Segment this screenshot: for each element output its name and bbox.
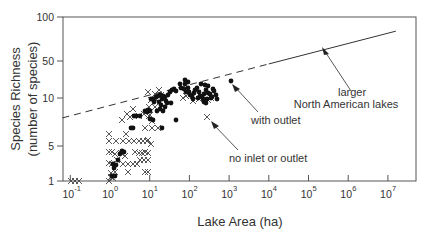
x-tick-exponent: 6	[352, 184, 356, 193]
dot-marker	[202, 100, 207, 105]
x-tick-label: 10	[142, 188, 154, 200]
dot-marker	[199, 82, 204, 87]
x-marker	[112, 151, 118, 157]
x-marker	[106, 138, 112, 144]
x-tick-label: 10	[62, 188, 74, 200]
y-tick-label: 100	[36, 11, 54, 23]
dot-marker	[178, 82, 183, 87]
dot-marker	[152, 100, 157, 105]
dot-marker	[229, 79, 234, 84]
annotation-north-american-text: North American lakes	[294, 98, 399, 110]
y-tick-label: 5	[48, 140, 54, 152]
x-marker	[145, 157, 151, 163]
y-axis-title-line1: Species Richness	[8, 47, 23, 151]
x-marker	[120, 138, 126, 144]
dot-marker	[122, 150, 127, 155]
x-tick-exponent: 4	[273, 184, 277, 193]
y-axis-title-line2: (number of species)	[25, 42, 40, 157]
x-marker	[136, 150, 142, 156]
dot-marker	[215, 97, 220, 102]
x-tick-label: 10	[261, 188, 273, 200]
dot-marker	[174, 89, 179, 94]
y-tick-label: 10	[42, 92, 54, 104]
annotation-larger-lakes: larger North American lakes	[294, 47, 399, 110]
x-marker	[119, 117, 125, 123]
x-marker	[106, 149, 112, 155]
x-marker	[106, 131, 112, 137]
x-tick-exponent: 0	[114, 184, 118, 193]
x-marker	[142, 169, 148, 175]
x-marker	[125, 169, 131, 175]
x-tick-exponent: 5	[313, 184, 317, 193]
dot-marker	[114, 163, 119, 168]
dot-marker	[113, 174, 118, 179]
x-tick-exponent: 2	[193, 184, 197, 193]
x-marker	[124, 111, 130, 117]
dot-marker	[197, 90, 202, 95]
dot-marker	[151, 118, 156, 123]
x-tick-label: 10	[221, 188, 233, 200]
x-marker	[125, 161, 131, 167]
annotation-with-outlet-text: with outlet	[250, 114, 301, 126]
x-marker	[180, 95, 186, 101]
dot-marker	[158, 107, 163, 112]
x-marker	[130, 106, 136, 112]
x-marker	[145, 169, 151, 175]
annotation-with-outlet: with outlet	[232, 84, 301, 126]
dot-marker	[191, 97, 196, 102]
dot-marker	[214, 93, 219, 98]
dot-marker	[203, 83, 208, 88]
x-marker	[113, 138, 119, 144]
x-marker	[142, 125, 148, 131]
dashed-fit-line	[62, 64, 268, 118]
dot-marker	[138, 114, 143, 119]
x-tick-label: 10	[380, 188, 392, 200]
x-marker	[145, 89, 151, 95]
x-tick-label: 10	[301, 188, 313, 200]
x-marker	[126, 138, 132, 144]
x-tick-exponent: -1	[74, 184, 81, 193]
y-axis-ticks: 100501051	[36, 11, 63, 187]
solid-fit-line	[269, 31, 396, 64]
x-marker	[131, 138, 137, 144]
scatter-chart: 100501051 10-1100101102103104105106107 l…	[0, 0, 425, 241]
x-axis-title: Lake Area (ha)	[197, 214, 282, 229]
dot-marker	[186, 86, 191, 91]
x-marker	[132, 149, 138, 155]
x-tick-exponent: 3	[233, 184, 237, 193]
annotation-larger-text: larger	[338, 86, 366, 98]
series-no-inlet-or-outlet	[68, 87, 214, 184]
x-marker	[120, 161, 126, 167]
x-marker	[109, 149, 115, 155]
dot-marker	[169, 101, 174, 106]
x-marker	[149, 125, 155, 131]
x-marker	[123, 131, 129, 137]
x-tick-label: 10	[102, 188, 114, 200]
dot-marker	[163, 105, 168, 110]
x-marker	[204, 114, 210, 120]
x-tick-exponent: 1	[154, 184, 158, 193]
dot-marker	[186, 80, 191, 85]
y-tick-label: 50	[42, 55, 54, 67]
x-marker	[156, 87, 162, 93]
x-tick-exponent: 7	[392, 184, 396, 193]
dot-marker	[131, 126, 136, 131]
dot-marker	[196, 96, 201, 101]
dot-marker	[174, 118, 179, 123]
dot-marker	[160, 126, 165, 131]
x-tick-label: 10	[340, 188, 352, 200]
x-tick-label: 10	[182, 188, 194, 200]
annotation-no-inlet-text: no inlet or outlet	[229, 152, 307, 164]
x-marker	[134, 161, 140, 167]
y-tick-label: 1	[48, 175, 54, 187]
dot-marker	[116, 158, 121, 163]
annotation-no-inlet: no inlet or outlet	[211, 121, 307, 164]
dot-marker	[148, 109, 153, 114]
x-marker	[148, 141, 154, 147]
